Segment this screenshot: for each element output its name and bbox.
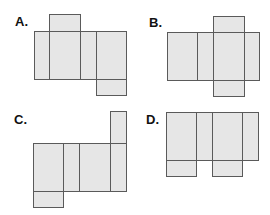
net-face bbox=[167, 161, 197, 177]
net-face bbox=[167, 113, 197, 161]
net-face bbox=[243, 113, 259, 161]
net-d-drawing bbox=[0, 0, 270, 215]
net-face bbox=[197, 113, 213, 161]
net-face bbox=[213, 113, 243, 161]
net-face bbox=[213, 161, 243, 177]
